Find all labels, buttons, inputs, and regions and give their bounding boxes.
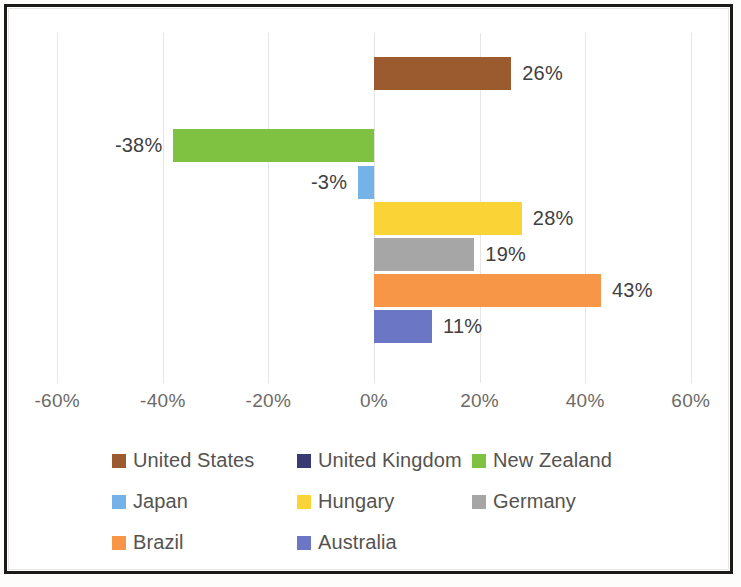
bar-germany xyxy=(374,238,474,271)
x-axis-tick-40: 40% xyxy=(540,390,630,412)
gridline-neg40 xyxy=(163,33,164,383)
legend-swatch-icon xyxy=(112,536,126,550)
legend-swatch-icon xyxy=(297,536,311,550)
x-axis-tick-20: 20% xyxy=(435,390,525,412)
legend-label: United Kingdom xyxy=(318,449,462,472)
legend-label: New Zealand xyxy=(493,449,612,472)
x-axis-tick-0: 0% xyxy=(329,390,419,412)
bar-new-zealand xyxy=(173,129,374,162)
legend-row: United StatesUnited KingdomNew Zealand xyxy=(112,440,642,481)
legend-label: Australia xyxy=(318,531,397,554)
legend-item-united-kingdom[interactable]: United Kingdom xyxy=(297,449,472,472)
legend-label: Japan xyxy=(133,490,188,513)
bar-value-label-brazil: 43% xyxy=(612,279,653,302)
x-axis-tick-neg60: -60% xyxy=(12,390,102,412)
legend-label: Germany xyxy=(493,490,576,513)
gridline-60 xyxy=(691,33,692,383)
chart-page: 26%-38%-3%28%19%43%11%-60%-40%-20%0%20%4… xyxy=(0,0,741,587)
legend-item-australia[interactable]: Australia xyxy=(297,531,472,554)
legend-swatch-icon xyxy=(297,495,311,509)
legend-swatch-icon xyxy=(472,495,486,509)
legend-label: Brazil xyxy=(133,531,184,554)
bar-value-label-australia: 11% xyxy=(443,315,482,338)
bar-value-label-japan: -3% xyxy=(311,171,347,194)
legend-item-new-zealand[interactable]: New Zealand xyxy=(472,449,632,472)
legend-row: BrazilAustralia xyxy=(112,522,642,563)
bar-hungary xyxy=(374,202,522,235)
x-axis-tick-60: 60% xyxy=(646,390,736,412)
bar-value-label-hungary: 28% xyxy=(533,207,574,230)
bar-japan xyxy=(358,166,374,199)
gridline-neg20 xyxy=(268,33,269,383)
chart-legend: United StatesUnited KingdomNew ZealandJa… xyxy=(112,440,642,563)
bar-australia xyxy=(374,310,432,343)
legend-item-united-states[interactable]: United States xyxy=(112,449,297,472)
legend-swatch-icon xyxy=(112,495,126,509)
x-axis-tick-neg20: -20% xyxy=(223,390,313,412)
legend-label: United States xyxy=(133,449,254,472)
legend-swatch-icon xyxy=(297,454,311,468)
bar-value-label-united-states: 26% xyxy=(522,62,563,85)
legend-label: Hungary xyxy=(318,490,394,513)
legend-swatch-icon xyxy=(112,454,126,468)
bar-value-label-germany: 19% xyxy=(485,243,526,266)
bar-brazil xyxy=(374,274,601,307)
gridline-40 xyxy=(585,33,586,383)
x-axis-tick-neg40: -40% xyxy=(118,390,208,412)
gridline-neg60 xyxy=(57,33,58,383)
legend-item-germany[interactable]: Germany xyxy=(472,490,632,513)
bar-value-label-new-zealand: -38% xyxy=(115,134,163,157)
legend-row: JapanHungaryGermany xyxy=(112,481,642,522)
legend-item-brazil[interactable]: Brazil xyxy=(112,531,297,554)
legend-item-hungary[interactable]: Hungary xyxy=(297,490,472,513)
legend-swatch-icon xyxy=(472,454,486,468)
legend-item-japan[interactable]: Japan xyxy=(112,490,297,513)
bar-united-states xyxy=(374,57,511,90)
